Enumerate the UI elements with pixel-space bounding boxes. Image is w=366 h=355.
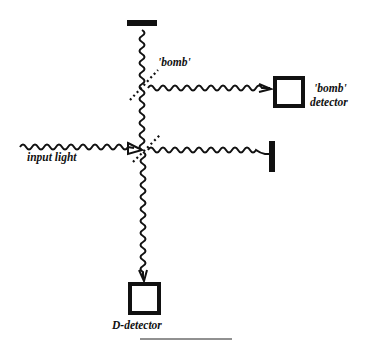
wave-to-bomb-detector: [148, 86, 270, 91]
top-mirror: [127, 20, 157, 26]
wave-to-right-mirror: [148, 148, 269, 155]
input-light-label: input light: [27, 151, 77, 164]
bomb-detector-box: [275, 78, 303, 106]
d-detector-label: D-detector: [111, 319, 162, 331]
interferometer-diagram: 'bomb' 'bomb' detector input light D-det…: [0, 0, 366, 355]
bomb-detector-label-line2: detector: [310, 96, 348, 108]
wave-input-light: [20, 145, 134, 150]
bomb-detector-label-line1: 'bomb': [314, 82, 347, 94]
wave-vertical-top: [140, 30, 145, 150]
wave-vertical-bottom: [141, 152, 146, 278]
bomb-label: 'bomb': [158, 56, 191, 68]
d-detector-box: [130, 284, 159, 313]
right-mirror: [269, 141, 275, 172]
